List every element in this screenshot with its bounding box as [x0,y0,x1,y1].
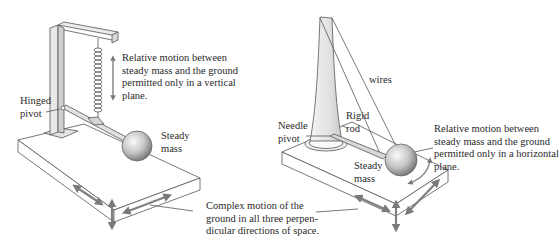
rigid-rod-label: Rigid rod [346,110,369,135]
right-needle-pivot-cone [310,17,342,141]
hinged-pivot-label: Hinged pivot [20,95,51,120]
left-spring [94,38,102,118]
left-steady-mass-label: Steady mass [161,130,190,155]
needle-pivot-label: Needle pivot [278,120,308,145]
ground-motion-label: Complex motion of the ground in all thre… [206,200,319,238]
left-post [50,25,64,135]
right-steady-mass-sphere [385,144,417,176]
left-steady-mass-sphere [122,131,152,161]
wires-label: wires [369,74,392,87]
right-steady-mass-label: Steady mass [354,160,383,185]
left-motion-label: Relative motion between steady mass and … [122,52,238,102]
right-motion-label: Relative motion between steady mass and … [434,123,559,173]
left-top-arm [58,22,118,43]
